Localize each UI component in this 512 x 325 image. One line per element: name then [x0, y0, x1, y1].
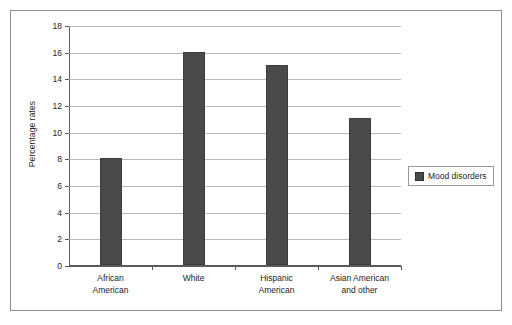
y-tick-label: 16 [53, 48, 62, 58]
plot-area: 024681012141618 African AmericanWhiteHis… [69, 26, 401, 266]
y-tick-mark [65, 213, 69, 214]
y-tick-label: 8 [57, 154, 62, 164]
y-tick-mark [65, 159, 69, 160]
x-tick-mark [235, 266, 236, 270]
chart-legend: Mood disorders [408, 166, 494, 186]
y-axis-title: Percentage rates [27, 69, 37, 199]
x-category-label: Asian American and other [314, 273, 406, 296]
bar [100, 158, 122, 265]
x-tick-mark [401, 266, 402, 270]
bar [266, 65, 288, 265]
legend-swatch-mood-disorders [415, 172, 424, 181]
y-tick-label: 0 [57, 261, 62, 271]
y-tick-label: 2 [57, 234, 62, 244]
x-category-label: White [148, 273, 240, 285]
bar [349, 118, 371, 265]
chart-figure: Percentage rates 024681012141618 African… [10, 10, 502, 311]
y-tick-mark [65, 186, 69, 187]
x-tick-mark [318, 266, 319, 270]
y-tick-label: 18 [53, 21, 62, 31]
gridline [69, 53, 401, 54]
y-tick-label: 10 [53, 128, 62, 138]
legend-label-mood-disorders: Mood disorders [428, 171, 487, 181]
y-tick-label: 12 [53, 101, 62, 111]
y-tick-mark [65, 53, 69, 54]
gridline [69, 106, 401, 107]
y-tick-mark [65, 266, 69, 267]
y-tick-label: 6 [57, 181, 62, 191]
y-tick-mark [65, 133, 69, 134]
x-category-label: Hispanic American [231, 273, 323, 296]
x-category-label: African American [65, 273, 157, 296]
y-tick-mark [65, 106, 69, 107]
x-tick-mark [152, 266, 153, 270]
bar [183, 52, 205, 265]
gridline [69, 79, 401, 80]
y-tick-label: 4 [57, 208, 62, 218]
y-tick-mark [65, 239, 69, 240]
gridline [69, 26, 401, 27]
y-axis-line [69, 26, 70, 266]
y-tick-label: 14 [53, 74, 62, 84]
y-tick-mark [65, 79, 69, 80]
y-tick-mark [65, 26, 69, 27]
